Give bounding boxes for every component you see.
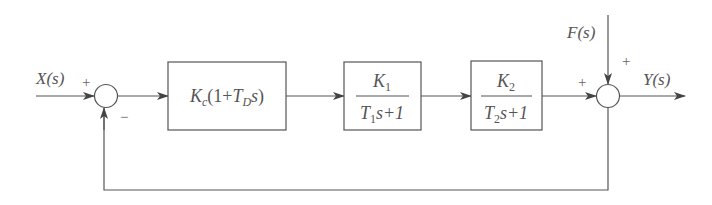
- plant2-denominator: T2s+1: [484, 103, 528, 126]
- output-label: Y(s): [643, 70, 671, 89]
- feedback-minus-sign: −: [120, 109, 128, 125]
- disturbance-label: F(s): [566, 23, 596, 42]
- controller-transfer-function: Kc(1+TDs): [189, 86, 264, 109]
- summing-junction-output: [597, 85, 620, 108]
- forward-plus-sign: +: [578, 74, 586, 90]
- block-diagram: X(s) + − Kc(1+TDs) K1 T1s+1 K2 T2s+1 + F…: [0, 0, 712, 205]
- summing-junction-error: [95, 85, 118, 108]
- input-label: X(s): [35, 69, 65, 88]
- input-plus-sign: +: [82, 74, 90, 90]
- plant1-denominator: T1s+1: [360, 103, 404, 126]
- disturbance-plus-sign: +: [622, 53, 630, 69]
